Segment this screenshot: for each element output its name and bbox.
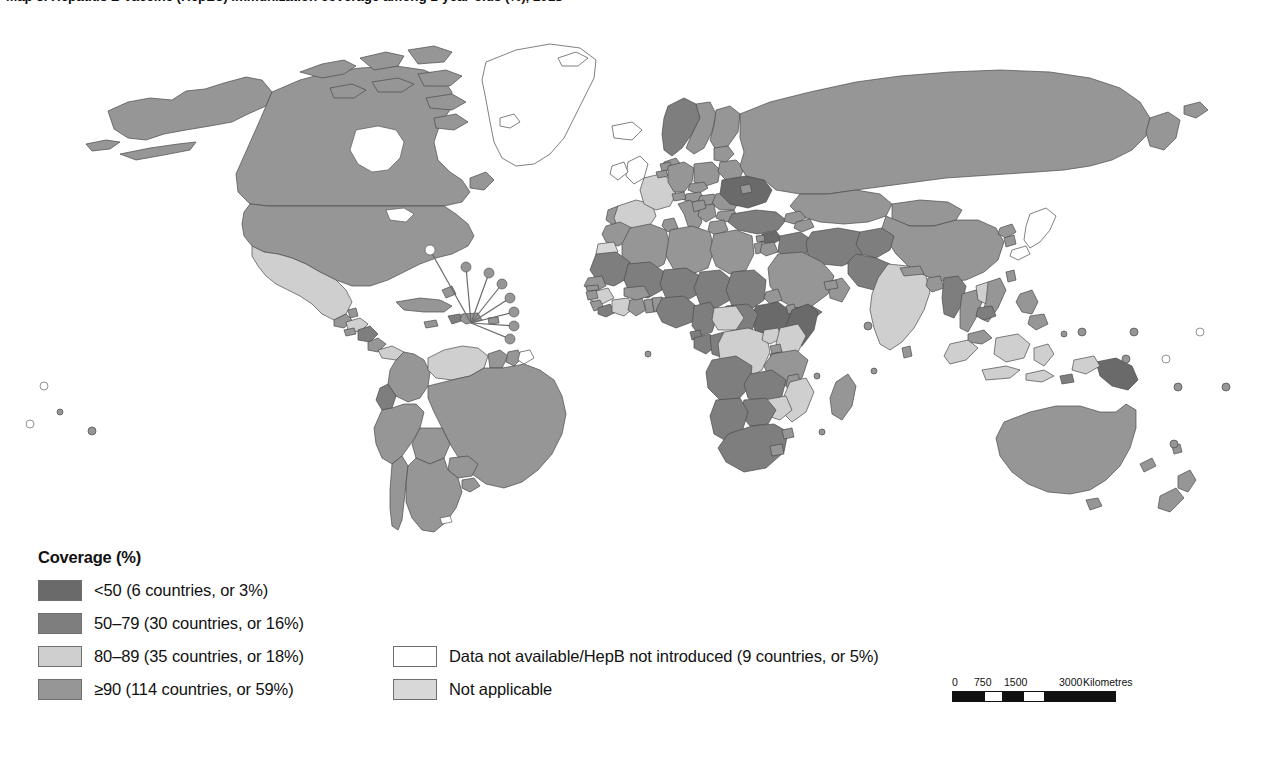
russia-far-east-islands xyxy=(1184,102,1208,118)
legend-item[interactable]: Data not available/HepB not introduced (… xyxy=(393,640,1013,673)
callout-dot-7 xyxy=(505,334,515,344)
country-cambodia xyxy=(976,306,996,320)
country-sri-lanka xyxy=(902,346,912,358)
scale-tick-labels: 0 750 1500 3000 Kilometres xyxy=(952,676,1142,691)
aleutian-islands-2 xyxy=(120,142,196,160)
scale-units: Kilometres xyxy=(1083,676,1133,688)
country-guinea-bissau xyxy=(586,290,598,300)
country-poland xyxy=(694,162,720,186)
legend-label-not-applicable: Not applicable xyxy=(449,680,552,699)
pacific-island-dot xyxy=(1196,328,1204,336)
legend-swatch-lt50 xyxy=(38,580,82,601)
ruler-segment xyxy=(1002,692,1025,701)
country-el-salvador xyxy=(344,328,356,336)
legend-heading: Coverage (%) xyxy=(38,548,1038,567)
country-taiwan xyxy=(1006,270,1016,282)
country-jordan xyxy=(760,242,778,256)
scale-tick-3000: 3000 xyxy=(1059,676,1082,688)
callout-dot-3 xyxy=(497,279,507,289)
legend-swatch-50-79 xyxy=(38,613,82,634)
newfoundland xyxy=(470,172,494,190)
atlantic-island-dot xyxy=(645,351,651,357)
country-switzerland xyxy=(672,192,686,201)
atlantic-island-dot xyxy=(88,427,96,435)
country-eswatini xyxy=(782,428,794,439)
callout-dot-2 xyxy=(484,268,494,278)
pacific-island-dot xyxy=(1162,355,1170,363)
legend-label-gte90: ≥90 (114 countries, or 59%) xyxy=(94,680,294,699)
country-indonesia-islands xyxy=(1026,370,1054,382)
country-timor-leste xyxy=(1060,374,1074,384)
country-india xyxy=(870,264,930,350)
caribbean-callout-lines xyxy=(430,250,514,339)
ruler-segment xyxy=(953,692,985,701)
country-libya xyxy=(666,226,714,274)
country-lebanon xyxy=(756,235,765,242)
country-moldova xyxy=(740,184,752,194)
country-lesotho xyxy=(770,444,784,456)
country-japan-2 xyxy=(1010,246,1030,260)
country-afghanistan xyxy=(856,228,894,258)
country-indonesia-java xyxy=(982,366,1020,380)
country-malaysia xyxy=(968,330,992,344)
callout-dot-nodata xyxy=(425,245,435,255)
legend-column-coverage: <50 (6 countries, or 3%) 50–79 (30 count… xyxy=(38,574,398,706)
country-madagascar xyxy=(830,374,856,420)
scale-tick-750: 750 xyxy=(974,676,992,688)
arctic-islands-3 xyxy=(408,46,452,64)
country-papua-new-guinea xyxy=(1096,358,1138,390)
aleutian-islands xyxy=(86,140,120,151)
ruler-segment xyxy=(1024,692,1043,701)
country-ghana xyxy=(628,298,646,316)
country-indonesia-sulawesi xyxy=(1034,344,1054,366)
pacific-island-dot xyxy=(1130,328,1138,336)
country-japan xyxy=(1024,208,1056,248)
indian-ocean-island-dot xyxy=(864,322,872,330)
pacific-island-dot xyxy=(1122,355,1130,363)
country-new-zealand xyxy=(1178,470,1196,492)
atlantic-island-dot xyxy=(57,409,63,415)
atlantic-island-dot xyxy=(26,420,34,428)
country-cuba xyxy=(396,298,452,312)
country-guyana xyxy=(488,350,508,368)
country-belize xyxy=(348,308,358,318)
legend-item[interactable]: ≥90 (114 countries, or 59%) xyxy=(38,673,398,706)
country-egypt xyxy=(710,230,754,274)
country-papua-west xyxy=(1072,356,1100,374)
country-uae xyxy=(824,280,838,290)
indian-ocean-island-dot xyxy=(819,429,825,435)
legend-label-lt50: <50 (6 countries, or 3%) xyxy=(94,581,268,600)
legend-swatch-no-data xyxy=(393,646,437,667)
page-title: Map 5. Hepatitis B vaccine (HepB3) immun… xyxy=(6,0,563,4)
callout-dot-4 xyxy=(505,293,515,303)
pacific-island-dot xyxy=(1174,383,1182,391)
legend-label-50-79: 50–79 (30 countries, or 16%) xyxy=(94,614,304,633)
legend-swatch-gte90 xyxy=(38,679,82,700)
callout-dot-1 xyxy=(461,262,471,272)
country-baltics xyxy=(714,146,734,162)
map-scale-bar: 0 750 1500 3000 Kilometres xyxy=(952,676,1142,702)
country-gambia xyxy=(586,285,599,291)
legend-item[interactable]: <50 (6 countries, or 3%) xyxy=(38,574,398,607)
world-map: .c{stroke:#4a4a4a;stroke-width:0.7;strok… xyxy=(0,14,1273,534)
country-jamaica xyxy=(424,320,438,328)
ruler-segment xyxy=(1044,692,1115,701)
indian-ocean-island-dot xyxy=(871,368,877,374)
legend-item[interactable]: Not applicable xyxy=(393,673,1013,706)
country-tasmania xyxy=(1086,498,1102,510)
scale-tick-1500: 1500 xyxy=(1004,676,1027,688)
country-alaska xyxy=(108,77,272,140)
legend-swatch-80-89 xyxy=(38,646,82,667)
legend-swatch-not-applicable xyxy=(393,679,437,700)
country-philippines xyxy=(1016,290,1038,314)
atlantic-island-dot xyxy=(40,382,48,390)
country-philippines-2 xyxy=(1028,314,1048,330)
ruler-segment xyxy=(985,692,1001,701)
legend-item[interactable]: 80–89 (35 countries, or 18%) xyxy=(38,640,398,673)
country-uruguay xyxy=(462,478,480,492)
country-indonesia-borneo xyxy=(994,334,1030,362)
country-iceland xyxy=(612,122,642,140)
legend-item[interactable]: 50–79 (30 countries, or 16%) xyxy=(38,607,398,640)
country-new-caledonia xyxy=(1140,458,1156,472)
country-kazakhstan xyxy=(790,190,892,224)
